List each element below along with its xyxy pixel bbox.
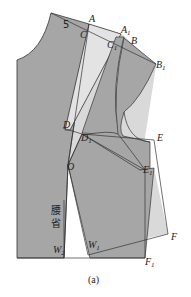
point-label-b: B [131, 35, 137, 46]
point-label-b1: B1 [156, 59, 166, 72]
pattern-diagram: 5 ACA1BC1B1DD1EOE1W2W1FF1 腰 省 (a) [0, 0, 191, 297]
number-label: 5 [63, 19, 69, 30]
figure-caption: (a) [88, 274, 99, 286]
waist-dart-label-2: 省 [51, 217, 61, 229]
waist-dart-label-1: 腰 [51, 205, 61, 216]
point-label-d: D [62, 119, 71, 130]
point-label-e: E [156, 132, 163, 143]
point-label-a: A [88, 13, 96, 24]
point-label-o: O [67, 161, 74, 172]
point-label-f: F [170, 231, 178, 242]
point-label-f1: F1 [144, 256, 155, 269]
point-label-c: C [80, 29, 87, 40]
